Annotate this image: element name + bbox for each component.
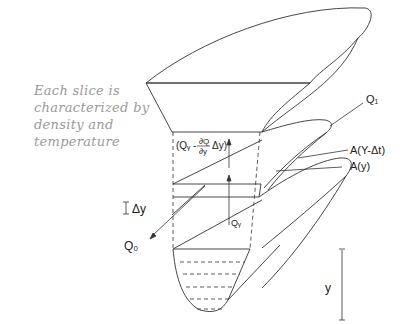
upper-area-lobe-inner	[268, 133, 326, 190]
top-basin-outline	[146, 8, 371, 83]
bowl-right-tail	[228, 245, 280, 300]
label-flux-prefix: (Qᵧ -	[176, 140, 196, 151]
upper-area-lobe	[262, 120, 332, 188]
lower-area-lobe	[259, 158, 351, 248]
label-q1: Q₁	[366, 93, 379, 105]
label-flux-num: ∂Q	[199, 137, 209, 146]
bottom-bowl	[173, 249, 250, 312]
label-depth-y: y	[325, 281, 331, 295]
slab-right-join	[259, 184, 261, 197]
arrow-head-up-icon	[227, 175, 231, 181]
label-area-upper: A(Y-Δt)	[350, 144, 385, 156]
arrow-head-up-icon	[227, 139, 231, 145]
diag-3	[172, 185, 205, 215]
label-area-lower: A(y)	[350, 160, 370, 172]
label-flux-den: ∂y	[199, 147, 207, 156]
q0-leader	[152, 186, 205, 236]
lake-slice-diagram: Q₁ Q₀ Qᵧ (Qᵧ - ∂Q ∂y Δy) A(Y-Δt) A(y) Δy…	[0, 0, 400, 324]
area-upper-leader	[298, 150, 348, 158]
label-q0: Q₀	[124, 239, 138, 253]
annotation-line: density and	[34, 116, 144, 133]
label-flux-suffix: Δy)	[212, 140, 227, 151]
dashed-right-vertical	[250, 132, 260, 249]
arrow-head-q0-icon	[150, 233, 156, 239]
right-sweep	[262, 38, 358, 132]
q1-leader	[330, 103, 363, 126]
lower-sweep	[262, 176, 346, 288]
handwritten-annotation: Each slice is characterized by density a…	[34, 82, 144, 150]
diag-2	[173, 200, 262, 249]
left-upper-wall	[146, 83, 172, 132]
label-delta-y: Δy	[132, 202, 146, 216]
annotation-line: Each slice is	[34, 82, 144, 99]
annotation-line: characterized by	[34, 99, 144, 116]
diagram-canvas: Q₁ Q₀ Qᵧ (Qᵧ - ∂Q ∂y Δy) A(Y-Δt) A(y) Δy…	[0, 0, 400, 324]
right-upper-wall	[262, 83, 310, 132]
annotation-line: temperature	[34, 133, 144, 150]
label-qy: Qᵧ	[231, 218, 241, 228]
